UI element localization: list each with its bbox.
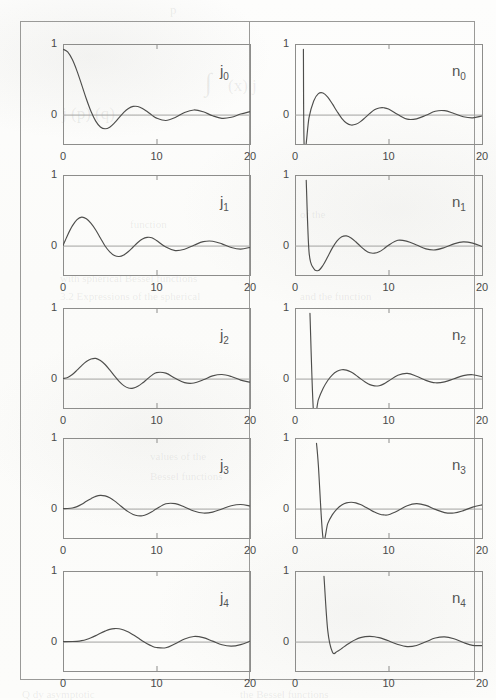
curve-label-n4: n4 xyxy=(452,589,466,609)
y-tick-label-1: 1 xyxy=(283,301,289,313)
plot-panel-n0: 1001020n0 xyxy=(271,32,496,163)
plot-frame xyxy=(296,176,483,276)
x-tick-label-10: 10 xyxy=(383,414,395,426)
x-tick-label-0: 0 xyxy=(292,677,298,689)
y-tick-label-0: 0 xyxy=(51,108,57,120)
x-tick-label-20: 20 xyxy=(476,544,488,556)
plot-panel-j3: 1001020j3 xyxy=(39,426,266,557)
x-tick-label-0: 0 xyxy=(60,281,66,293)
x-tick-label-10: 10 xyxy=(383,544,395,556)
plot-svg xyxy=(271,426,496,557)
y-tick-label-0: 0 xyxy=(51,635,57,647)
x-tick-label-0: 0 xyxy=(292,150,298,162)
curve-label-n0: n0 xyxy=(452,62,466,82)
x-tick-label-10: 10 xyxy=(151,414,163,426)
y-tick-label-1: 1 xyxy=(51,168,57,180)
plot-panel-n1: 1001020n1 xyxy=(271,163,496,294)
y-tick-label-1: 1 xyxy=(51,301,57,313)
y-tick-label-1: 1 xyxy=(283,431,289,443)
plot-svg xyxy=(271,559,496,690)
plot-panel-j2: 1001020j2 xyxy=(39,296,266,427)
plot-frame xyxy=(64,439,251,539)
y-tick-label-1: 1 xyxy=(283,37,289,49)
x-tick-label-0: 0 xyxy=(292,544,298,556)
curve-label-j2: j2 xyxy=(220,326,229,346)
plot-frame xyxy=(64,176,251,276)
plot-frame xyxy=(296,572,483,672)
x-tick-label-0: 0 xyxy=(60,150,66,162)
curve-label-j4: j4 xyxy=(220,589,229,609)
plot-panel-j0: 1001020j0 xyxy=(39,32,266,163)
x-tick-label-20: 20 xyxy=(244,677,256,689)
x-tick-label-20: 20 xyxy=(476,281,488,293)
x-tick-label-0: 0 xyxy=(60,544,66,556)
y-tick-label-0: 0 xyxy=(283,502,289,514)
plot-panel-j1: 1001020j1 xyxy=(39,163,266,294)
x-tick-label-10: 10 xyxy=(151,281,163,293)
y-tick-label-0: 0 xyxy=(51,239,57,251)
plot-svg xyxy=(39,32,266,163)
y-tick-label-1: 1 xyxy=(51,37,57,49)
x-tick-label-20: 20 xyxy=(244,281,256,293)
plot-svg xyxy=(39,163,266,294)
plot-frame xyxy=(296,45,483,145)
plot-frame xyxy=(296,439,483,539)
plot-svg xyxy=(271,296,496,427)
x-tick-label-0: 0 xyxy=(60,677,66,689)
curve-label-n1: n1 xyxy=(452,193,466,213)
x-tick-label-0: 0 xyxy=(292,281,298,293)
y-tick-label-0: 0 xyxy=(51,372,57,384)
plot-svg xyxy=(39,296,266,427)
figure-outer-frame: 1001020j01001020n01001020j11001020n11001… xyxy=(20,21,475,680)
y-tick-label-1: 1 xyxy=(51,564,57,576)
x-tick-label-20: 20 xyxy=(476,150,488,162)
plot-frame xyxy=(64,572,251,672)
plot-frame xyxy=(64,45,251,145)
curve-j3 xyxy=(63,495,250,516)
curve-label-j3: j3 xyxy=(220,456,229,476)
y-tick-label-1: 1 xyxy=(283,168,289,180)
curve-label-j0: j0 xyxy=(220,62,229,82)
plot-svg xyxy=(271,163,496,294)
x-tick-label-10: 10 xyxy=(151,544,163,556)
curve-j2 xyxy=(63,358,250,388)
curve-j1 xyxy=(63,217,250,256)
x-tick-label-10: 10 xyxy=(151,677,163,689)
x-tick-label-20: 20 xyxy=(244,544,256,556)
x-tick-label-0: 0 xyxy=(292,414,298,426)
curve-label-n2: n2 xyxy=(452,326,466,346)
y-tick-label-0: 0 xyxy=(283,635,289,647)
y-tick-label-0: 0 xyxy=(51,502,57,514)
curve-j4 xyxy=(63,629,250,649)
x-tick-label-20: 20 xyxy=(244,414,256,426)
plot-panel-j4: 1001020j4 xyxy=(39,559,266,690)
plot-svg xyxy=(39,559,266,690)
y-tick-label-1: 1 xyxy=(51,431,57,443)
curve-label-n3: n3 xyxy=(452,456,466,476)
y-tick-label-0: 0 xyxy=(283,239,289,251)
y-tick-label-0: 0 xyxy=(283,108,289,120)
plot-panel-n4: 1001020n4 xyxy=(271,559,496,690)
x-tick-label-20: 20 xyxy=(476,414,488,426)
plot-svg xyxy=(271,32,496,163)
y-tick-label-1: 1 xyxy=(283,564,289,576)
plot-frame xyxy=(296,309,483,409)
x-tick-label-0: 0 xyxy=(60,414,66,426)
y-tick-label-0: 0 xyxy=(283,372,289,384)
plot-panel-n3: 1001020n3 xyxy=(271,426,496,557)
x-tick-label-20: 20 xyxy=(244,150,256,162)
x-tick-label-10: 10 xyxy=(383,150,395,162)
plot-svg xyxy=(39,426,266,557)
ghost-text: p xyxy=(170,2,177,18)
x-tick-label-10: 10 xyxy=(383,677,395,689)
plot-panel-n2: 1001020n2 xyxy=(271,296,496,427)
x-tick-label-10: 10 xyxy=(151,150,163,162)
curve-label-j1: j1 xyxy=(220,193,229,213)
x-tick-label-10: 10 xyxy=(383,281,395,293)
x-tick-label-20: 20 xyxy=(476,677,488,689)
